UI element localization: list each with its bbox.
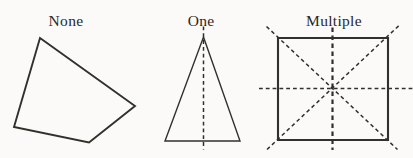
label-multiple: Multiple bbox=[306, 12, 362, 29]
lines-of-symmetry-diagram: None One Multiple bbox=[0, 0, 413, 158]
label-one: One bbox=[188, 12, 215, 29]
triangle-shape bbox=[165, 37, 240, 141]
quadrilateral-shape bbox=[14, 38, 135, 143]
label-none: None bbox=[49, 12, 84, 29]
